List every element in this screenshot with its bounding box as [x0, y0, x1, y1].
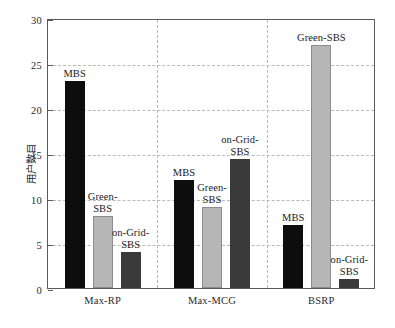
- figure: 用户数目 051015202530 Max-RPMax-MCGBSRP MBSG…: [0, 0, 395, 328]
- y-axis-tick-mark: [48, 110, 53, 111]
- bar-on-grid-sbs-bsrp: [339, 279, 359, 288]
- bar-mbs-max-rp: [65, 81, 85, 288]
- x-axis-tick-label: Max-MCG: [188, 295, 236, 306]
- y-axis-tick-mark: [48, 155, 53, 156]
- bar-green-sbs-bsrp: [311, 45, 331, 288]
- y-axis-tick-label: 25: [31, 60, 42, 71]
- y-axis-tick-label: 20: [31, 105, 42, 116]
- y-axis-tick-mark: [48, 200, 53, 201]
- x-axis-tick-label: Max-RP: [84, 295, 121, 306]
- bar-annotation: on-Grid- SBS: [318, 254, 380, 278]
- x-axis-tick-label: BSRP: [308, 295, 335, 306]
- y-axis-tick-mark: [48, 290, 53, 291]
- bar-annotation: on-Grid- SBS: [209, 134, 271, 158]
- y-axis-tick-label: 10: [31, 195, 42, 206]
- bar-mbs-bsrp: [283, 225, 303, 288]
- bar-green-sbs-max-mcg: [202, 207, 222, 288]
- y-axis-tick-label: 15: [31, 150, 42, 161]
- bar-annotation: on-Grid- SBS: [100, 227, 162, 251]
- y-axis-tick-mark: [48, 245, 53, 246]
- y-axis-tick-label: 0: [37, 285, 42, 296]
- y-axis-tick-label: 30: [31, 15, 42, 26]
- y-axis-tick-mark: [48, 20, 53, 21]
- y-axis-tick-mark: [48, 65, 53, 66]
- bar-annotation: MBS: [44, 68, 106, 80]
- plot-area: 051015202530 Max-RPMax-MCGBSRP MBSGreen-…: [47, 19, 375, 289]
- figure-caption: [0, 311, 395, 328]
- bar-annotation: MBS: [153, 167, 215, 179]
- bar-on-grid-sbs-max-rp: [121, 252, 141, 288]
- y-axis-tick-label: 5: [37, 240, 42, 251]
- bar-annotation: Green- SBS: [72, 191, 134, 215]
- bar-on-grid-sbs-max-mcg: [230, 159, 250, 288]
- bar-annotation: Green-SBS: [290, 32, 352, 44]
